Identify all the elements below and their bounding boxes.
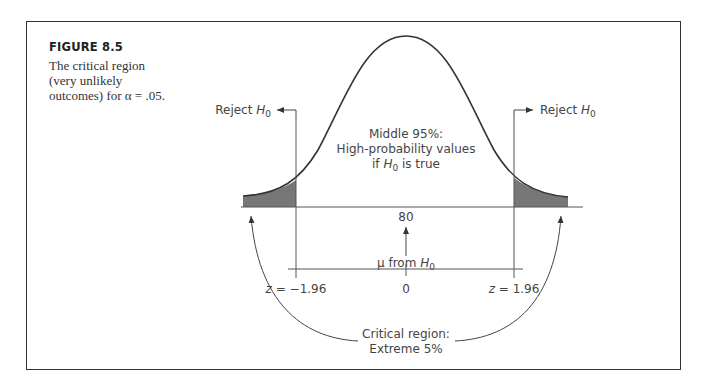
middle-label-line3: if H0 is true bbox=[372, 157, 440, 173]
z-right-label: z = 1.96 bbox=[488, 282, 540, 296]
middle-label-line2: High-probability values bbox=[337, 142, 476, 156]
z-center-label: 0 bbox=[402, 282, 410, 296]
normal-curve bbox=[243, 36, 568, 197]
mean-value-label: 80 bbox=[398, 210, 413, 224]
critical-left-arc bbox=[251, 216, 358, 341]
middle-label-line1: Middle 95%: bbox=[369, 127, 443, 141]
reject-right-label: Reject H0 bbox=[540, 103, 596, 119]
critical-label-line2: Extreme 5% bbox=[369, 342, 442, 356]
critical-right-arc bbox=[455, 216, 561, 341]
normal-distribution-diagram: Reject H0 Reject H0 Middle 95%: High-pro… bbox=[0, 0, 708, 390]
reject-left-arrow bbox=[277, 110, 296, 118]
critical-label-line1: Critical region: bbox=[362, 327, 450, 341]
reject-right-arrow bbox=[514, 110, 533, 118]
reject-left-label: Reject H0 bbox=[215, 103, 271, 119]
